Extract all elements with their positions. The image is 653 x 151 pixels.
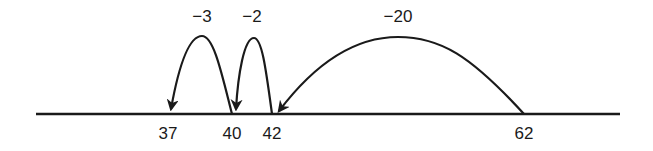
jump-arrow-minus-20 [279,37,524,114]
jump-arrow-minus-3 [171,36,232,114]
tick-label-42: 42 [263,125,282,142]
tick-label-40: 40 [223,125,242,142]
jump-label-minus-2: −2 [242,8,261,25]
tick-label-62: 62 [515,125,534,142]
jump-arrow-minus-2 [236,38,272,114]
number-line-diagram: −3 −2 −20 37 40 42 62 [0,0,653,151]
jump-label-minus-3: −3 [192,8,211,25]
jump-label-minus-20: −20 [384,8,413,25]
tick-label-37: 37 [159,125,178,142]
number-line-svg [0,0,653,151]
